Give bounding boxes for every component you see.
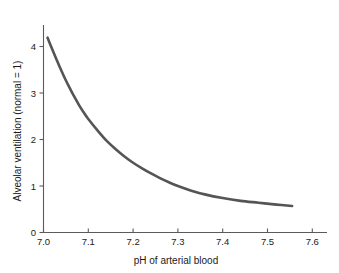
y-tick-label-0: 0 — [31, 227, 36, 238]
y-tick-label-4: 4 — [31, 41, 36, 52]
y-axis-title: Alveolar ventilation (normal = 1) — [12, 61, 23, 202]
chart-figure: 0 1 2 3 4 7.0 7.1 7.2 7.3 7.4 7.5 7.6 — [0, 0, 339, 273]
x-tick-label-7-1: 7.1 — [82, 236, 95, 247]
x-tick-label-7-0: 7.0 — [37, 236, 50, 247]
x-axis-title: pH of arterial blood — [134, 255, 219, 266]
y-tick-label-1: 1 — [31, 181, 36, 192]
chart-canvas: 0 1 2 3 4 7.0 7.1 7.2 7.3 7.4 7.5 7.6 — [0, 0, 339, 273]
x-tick-label-7-2: 7.2 — [126, 236, 139, 247]
x-tick-label-7-4: 7.4 — [216, 236, 229, 247]
x-tick-label-7-5: 7.5 — [261, 236, 274, 247]
y-tick-label-3: 3 — [31, 88, 36, 99]
x-tick-label-7-3: 7.3 — [171, 236, 184, 247]
y-tick-label-2: 2 — [31, 134, 36, 145]
x-tick-label-7-6: 7.6 — [306, 236, 319, 247]
